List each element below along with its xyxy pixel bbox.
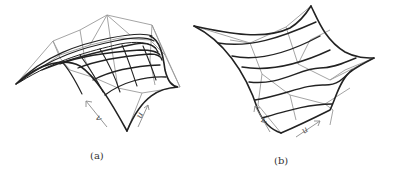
- panel-b-caption: (b): [274, 155, 288, 166]
- panel-b-control-net: [194, 6, 374, 133]
- panel-a-v-arrow-icon: [86, 101, 107, 127]
- panel-a-caption: (a): [90, 150, 104, 161]
- panel-b-figure: v u: [194, 6, 374, 137]
- panel-a-figure: v u: [16, 15, 180, 131]
- panel-a-control-net: [16, 15, 180, 131]
- panel-a-u-label: u: [134, 110, 146, 120]
